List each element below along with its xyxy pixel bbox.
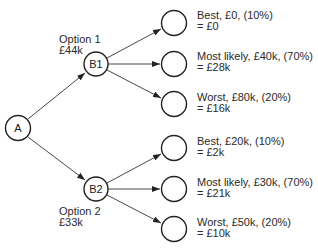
node-b1-label: B1 [89,58,102,70]
outcome-b2-best-line2: = £2k [197,147,224,158]
decision-tree-diagram: A B1 B2 [0,0,318,251]
node-a-label: A [14,122,22,134]
edge-b1-worst [107,70,161,98]
outcome-node-b2-best [162,136,187,161]
edge-a-b2 [28,137,85,180]
outcome-b2-likely-line2: = £21k [197,188,230,199]
edge-b2-best [107,154,161,183]
outcome-node-b1-worst [162,92,187,117]
edge-b1-best [107,29,161,58]
outcome-node-b1-best [162,11,187,36]
outcome-node-b2-worst [162,217,187,242]
outcome-b1-likely-line2: = £28k [197,62,230,73]
outcome-node-b1-likely [162,52,187,77]
option-2-value: £33k [59,217,83,228]
outcome-node-b2-likely [162,177,187,202]
edge-b2-worst [107,195,161,223]
outcome-b1-best-line2: = £0 [197,21,219,32]
outcome-b2-worst-line2: = £10k [197,228,230,239]
node-b2-label: B2 [89,183,102,195]
edge-a-b1 [28,73,85,119]
outcome-b1-worst-line2: = £16k [197,103,230,114]
option-1-value: £44k [59,45,83,56]
